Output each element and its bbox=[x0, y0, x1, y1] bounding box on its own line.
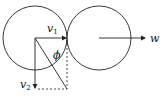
v2-label: v2 bbox=[20, 78, 31, 92]
collision-diagram: v1 v2 ϕ w bbox=[0, 0, 160, 97]
w-label: w bbox=[150, 32, 160, 45]
v1-label: v1 bbox=[47, 22, 58, 36]
phi-label: ϕ bbox=[53, 49, 61, 62]
resultant-line bbox=[35, 38, 67, 89]
